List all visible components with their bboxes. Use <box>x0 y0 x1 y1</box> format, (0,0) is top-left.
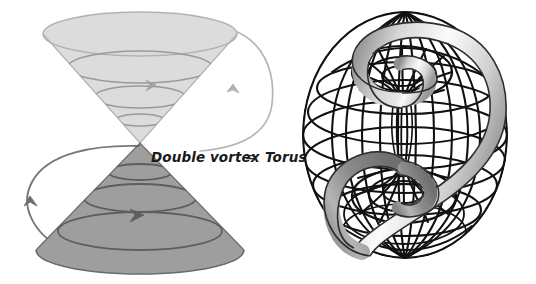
left-flow-arrow <box>24 196 37 206</box>
label-equals-sign: = <box>245 149 256 165</box>
torus-diagram <box>292 0 536 284</box>
label-double-vortex: Double vortex <box>151 149 260 165</box>
double-vortex-diagram <box>0 0 300 284</box>
figure-root: Double vortex = Torus <box>0 0 536 284</box>
upper-cone <box>43 12 237 143</box>
right-flow-arrow <box>227 84 239 93</box>
label-torus: Torus <box>265 149 307 165</box>
